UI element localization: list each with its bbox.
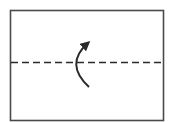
fold-diagram (0, 0, 174, 122)
paper-outline (11, 11, 164, 121)
